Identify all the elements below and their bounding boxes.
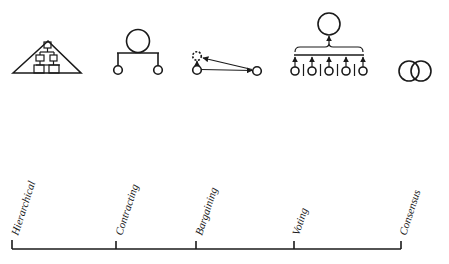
label-voting: Voting: [289, 206, 309, 237]
hierarchical-icon: [13, 41, 81, 73]
label-contracting: Contracting: [112, 182, 140, 237]
label-consensus: Consensus: [396, 188, 422, 236]
bargaining-icon: [193, 52, 262, 76]
coordination-spectrum-diagram: Hierarchical Contracting Bargaining Voti…: [0, 0, 449, 264]
spectrum-axis: Hierarchical Contracting Bargaining Voti…: [8, 179, 422, 249]
voting-icon: [291, 13, 367, 76]
label-bargaining: Bargaining: [192, 185, 219, 236]
voter-circles: [291, 57, 367, 76]
consensus-icon: [399, 61, 431, 81]
contracting-icon: [114, 30, 163, 75]
label-hierarchical: Hierarchical: [8, 179, 37, 237]
